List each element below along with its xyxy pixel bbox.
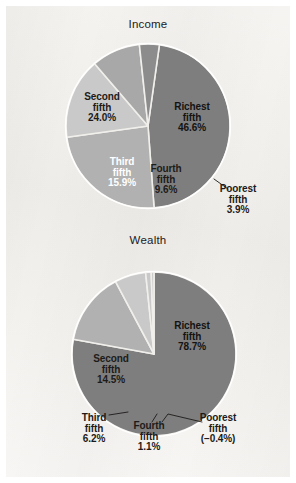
figure-plate: Income Richestfifth46.6%Secondfifth24.0%… — [6, 6, 290, 477]
pie-label-wealth-third-fifth: Thirdfifth6.2% — [82, 412, 107, 444]
pie-label-wealth-poorest-fifth: Poorestfifth(−0.4%) — [200, 412, 237, 444]
pie-chart-income: Income Richestfifth46.6%Secondfifth24.0%… — [6, 6, 290, 228]
pie-label-income-poorest-fifth: Poorestfifth3.9% — [220, 183, 257, 215]
chart-title-wealth: Wealth — [130, 234, 167, 246]
wealth-chart-svg: Wealth Richestfifth78.7%Secondfifth14.5%… — [6, 222, 290, 477]
income-chart-svg: Income Richestfifth46.6%Secondfifth24.0%… — [6, 6, 290, 228]
chart-title-income: Income — [129, 18, 168, 30]
pie-slice-income-second-fifth — [67, 126, 154, 208]
figure-root: Income Richestfifth46.6%Secondfifth24.0%… — [0, 0, 296, 483]
pie-chart-wealth: Wealth Richestfifth78.7%Secondfifth14.5%… — [6, 222, 290, 477]
